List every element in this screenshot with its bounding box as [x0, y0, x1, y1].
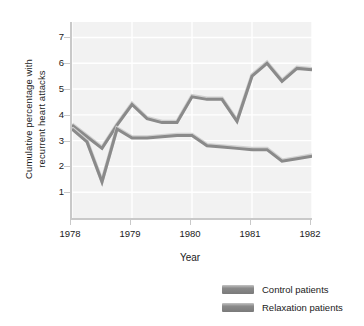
- legend-item: Relaxation patients: [222, 300, 364, 315]
- gridlines: [72, 22, 312, 218]
- chart-figure: Cumulative percentage with recurrent hea…: [0, 0, 364, 326]
- y-axis-tick-label: 3: [50, 136, 64, 146]
- x-axis-tick-mark: [190, 219, 191, 225]
- y-axis-tick-mark: [64, 166, 71, 167]
- x-axis-tick-label: 1982: [290, 228, 330, 239]
- x-axis-tick-mark: [130, 219, 131, 225]
- y-axis-tick-mark: [64, 192, 71, 193]
- y-axis-tick-label: 4: [50, 110, 64, 120]
- y-axis-title-line-1: Cumulative percentage with: [23, 59, 36, 179]
- legend-color-swatch: [222, 285, 254, 294]
- legend-label: Control patients: [262, 284, 329, 295]
- x-axis-title: Year: [70, 252, 310, 263]
- x-axis-tick-label: 1978: [50, 228, 90, 239]
- legend-item: Control patients: [222, 282, 364, 297]
- plot-lines: [72, 22, 312, 218]
- y-axis-title-line-2: recurrent heart attacks: [35, 59, 48, 179]
- plot-area: [70, 22, 312, 220]
- x-axis-tick-label: 1981: [230, 228, 270, 239]
- y-axis-title-text: Cumulative percentage with recurrent hea…: [23, 59, 48, 179]
- y-axis-tick-label: 6: [50, 58, 64, 68]
- y-axis-tick-mark: [64, 63, 71, 64]
- x-axis-tick-mark: [70, 219, 71, 225]
- y-axis-tick-label: 5: [50, 84, 64, 94]
- legend-color-swatch: [222, 303, 254, 312]
- legend-label: Relaxation patients: [262, 302, 343, 313]
- x-axis-tick-mark: [310, 219, 311, 225]
- y-axis-title: Cumulative percentage with recurrent hea…: [18, 28, 52, 210]
- y-axis-tick-label: 7: [50, 32, 64, 42]
- y-axis-tick-label: 1: [50, 187, 64, 197]
- x-axis-tick-label: 1980: [170, 228, 210, 239]
- y-axis-tick-labels: 1234567: [50, 0, 64, 326]
- y-axis-tick-label: 2: [50, 161, 64, 171]
- x-axis-tick-mark: [250, 219, 251, 225]
- y-axis-tick-mark: [64, 141, 71, 142]
- y-axis-tick-mark: [64, 37, 71, 38]
- y-axis-tick-mark: [64, 89, 71, 90]
- x-axis-tick-label: 1979: [110, 228, 150, 239]
- chart-legend: Control patientsRelaxation patients: [222, 282, 364, 318]
- y-axis-tick-mark: [64, 115, 71, 116]
